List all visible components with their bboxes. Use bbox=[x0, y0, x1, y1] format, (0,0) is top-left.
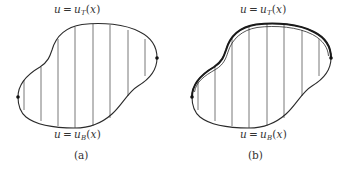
label-func: u bbox=[260, 3, 267, 15]
label-paren: ) bbox=[283, 128, 287, 140]
caption-a: (a) bbox=[74, 149, 88, 161]
label-func: u bbox=[260, 128, 267, 140]
vertical-strips-b bbox=[198, 24, 319, 128]
label-var: u bbox=[240, 3, 247, 15]
top-curve-label-a: u=uT(x) bbox=[54, 3, 101, 17]
upper-boundary-highlight-b bbox=[192, 23, 331, 97]
label-eq: = bbox=[61, 128, 74, 140]
boundary-point-right-b bbox=[329, 56, 333, 60]
panel-b: u=uT(x) u=uB(x) (b) bbox=[174, 0, 348, 173]
label-eq: = bbox=[61, 3, 74, 15]
top-curve-label-b: u=uT(x) bbox=[240, 3, 287, 17]
region-diagram-b bbox=[174, 0, 348, 173]
boundary-point-right-a bbox=[155, 56, 159, 60]
label-var: u bbox=[240, 128, 247, 140]
label-func: u bbox=[74, 128, 81, 140]
bottom-curve-label-b: u=uB(x) bbox=[240, 128, 287, 142]
label-paren: ) bbox=[282, 3, 286, 15]
region-boundary-a bbox=[18, 23, 157, 128]
panel-a: u=uT(x) u=uB(x) (a) bbox=[0, 0, 174, 173]
label-var: u bbox=[54, 128, 61, 140]
label-eq: = bbox=[247, 128, 260, 140]
label-func: u bbox=[74, 3, 81, 15]
label-paren: ) bbox=[97, 128, 101, 140]
region-diagram-a bbox=[0, 0, 174, 173]
label-var: u bbox=[54, 3, 61, 15]
boundary-point-left-a bbox=[16, 95, 20, 99]
bottom-curve-label-a: u=uB(x) bbox=[54, 128, 101, 142]
figure: u=uT(x) u=uB(x) (a) bbox=[0, 0, 348, 173]
label-eq: = bbox=[247, 3, 260, 15]
caption-b: (b) bbox=[248, 149, 263, 161]
vertical-strips-a bbox=[24, 24, 145, 128]
boundary-point-left-b bbox=[190, 95, 194, 99]
region-boundary-b bbox=[192, 23, 331, 128]
label-paren: ) bbox=[96, 3, 100, 15]
